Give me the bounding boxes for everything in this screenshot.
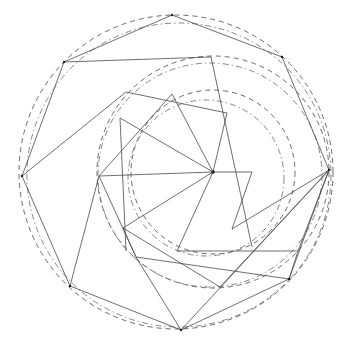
- edge-segment: [99, 94, 172, 176]
- edge-segment: [232, 172, 252, 229]
- vertex-center: [211, 170, 215, 174]
- vertex-outer-right: [328, 169, 330, 171]
- outer-circle-dashdot: [27, 23, 331, 327]
- vertex-outer-lower-right: [288, 278, 290, 280]
- edge-segment: [70, 176, 99, 286]
- vertex-outer-lower-left: [69, 285, 71, 287]
- edge-segment: [177, 172, 213, 251]
- edge-segment: [99, 172, 213, 176]
- edge-segment: [172, 15, 282, 57]
- edge-segment: [22, 176, 70, 286]
- vertex-outer-upper-right: [281, 56, 283, 58]
- geometric-diagram: [0, 0, 349, 347]
- vertex-outer-bottom: [180, 329, 182, 331]
- inner-circle-dashdot: [128, 100, 284, 256]
- edge-segment: [232, 170, 329, 229]
- edge-segment: [211, 57, 252, 247]
- edge-segment: [298, 170, 329, 251]
- vertex-outer-left: [21, 175, 23, 177]
- edge-segment: [64, 15, 172, 62]
- edge-segment: [64, 57, 211, 62]
- edge-segment: [136, 257, 289, 279]
- edge-segment: [99, 176, 136, 257]
- edge-segment: [120, 118, 126, 251]
- edge-segment: [70, 286, 181, 330]
- vertex-outer-upper-left: [63, 61, 65, 63]
- edge-segment: [213, 113, 227, 172]
- diagram-canvas: [0, 0, 349, 347]
- edge-segment: [123, 172, 213, 228]
- edge-segment: [282, 57, 329, 170]
- edge-segment: [136, 257, 181, 330]
- vertex-outer-top: [171, 14, 173, 16]
